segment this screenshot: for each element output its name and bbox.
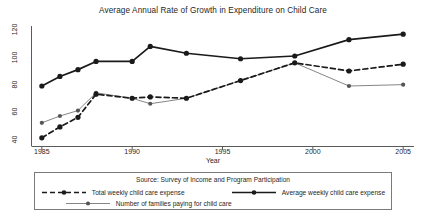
x-tick-2000: 2000 bbox=[293, 148, 333, 155]
legend-swatch-dashed-icon bbox=[41, 188, 87, 197]
legend-label-total-weekly: Total weekly child care expense bbox=[92, 189, 185, 196]
y-tick-120: 120 bbox=[11, 19, 18, 41]
legend-entry-total-weekly: Total weekly child care expense bbox=[41, 188, 185, 197]
y-tick-40: 40 bbox=[11, 128, 18, 150]
x-tick-1990: 1990 bbox=[112, 148, 152, 155]
chart-legend: Source: Survey of Income and Program Par… bbox=[34, 172, 392, 210]
legend-entry-average-weekly: Average weekly child care expense bbox=[231, 188, 385, 197]
legend-swatch-solid-thick-icon bbox=[231, 188, 277, 197]
plot-area bbox=[31, 26, 414, 146]
x-tick-2005: 2005 bbox=[383, 148, 423, 155]
y-tick-100: 100 bbox=[11, 46, 18, 68]
x-tick-1985: 1985 bbox=[22, 148, 62, 155]
x-axis-title: Year bbox=[0, 157, 426, 164]
legend-label-average-weekly: Average weekly child care expense bbox=[282, 189, 385, 196]
legend-source-note: Source: Survey of Income and Program Par… bbox=[35, 176, 391, 183]
plot-svg bbox=[31, 26, 414, 152]
legend-label-number-families: Number of families paying for child care bbox=[116, 200, 232, 207]
legend-entry-number-families: Number of families paying for child care bbox=[65, 199, 232, 208]
chart-container: Average Annual Rate of Growth in Expendi… bbox=[0, 0, 426, 217]
chart-title: Average Annual Rate of Growth in Expendi… bbox=[0, 6, 426, 15]
y-tick-80: 80 bbox=[11, 74, 18, 96]
x-tick-1995: 1995 bbox=[203, 148, 243, 155]
legend-swatch-solid-thin-icon bbox=[65, 199, 111, 208]
y-tick-60: 60 bbox=[11, 101, 18, 123]
